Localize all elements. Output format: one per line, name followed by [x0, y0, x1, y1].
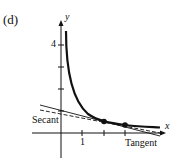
secant-label: Secant — [32, 114, 59, 125]
x-axis-label: x — [165, 120, 169, 131]
y-axis-label: y — [65, 11, 69, 22]
y-axis-arrow-icon — [59, 20, 64, 26]
y-tick-label: 4 — [51, 38, 56, 49]
point-marker — [122, 122, 128, 128]
x-axis-arrow-icon — [160, 131, 166, 136]
x-tick-label: 1 — [80, 136, 85, 147]
point-marker — [101, 119, 107, 125]
panel-label: (d) — [3, 12, 18, 28]
tangent-label: Tangent — [125, 137, 157, 148]
curve — [66, 31, 160, 128]
